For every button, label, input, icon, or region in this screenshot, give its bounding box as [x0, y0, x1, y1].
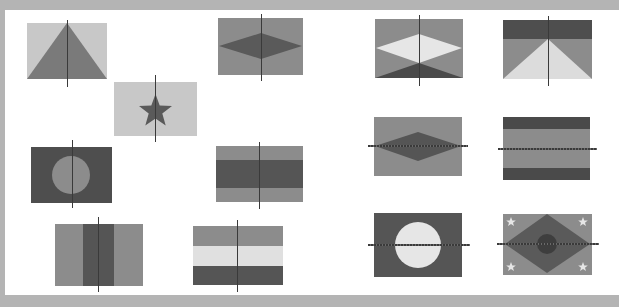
flag-tricolor: [193, 226, 283, 285]
symmetry-line-vertical: [548, 16, 549, 86]
symmetry-line-vertical: [98, 217, 99, 292]
symmetry-line-horizontal: [497, 243, 599, 245]
symmetry-line-vertical: [237, 220, 238, 292]
symmetry-line-horizontal: [498, 148, 597, 150]
symmetry-line-horizontal: [368, 244, 470, 246]
symmetry-line-vertical: [67, 20, 68, 87]
flag-vertical-bands: [55, 224, 143, 286]
symmetry-line-vertical: [419, 15, 420, 86]
symmetry-line-horizontal: [368, 145, 468, 147]
symmetry-line-vertical: [72, 140, 73, 208]
symmetry-line-vertical: [259, 142, 260, 209]
symmetry-line-vertical: [261, 14, 262, 81]
symmetry-line-vertical: [155, 75, 156, 142]
